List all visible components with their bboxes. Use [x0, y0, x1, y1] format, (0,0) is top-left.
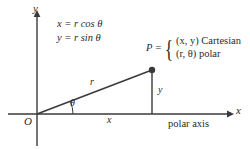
point-prefix-label: P = — [146, 43, 162, 54]
x-axis-label: x — [236, 105, 241, 116]
brace-icon: { — [165, 39, 173, 59]
point-case-cartesian: (x, y) Cartesian — [176, 36, 241, 47]
conversion-equations: x = r cos θ y = r sin θ — [57, 19, 103, 46]
angle-label: θ — [70, 98, 75, 108]
point-cases: (x, y) Cartesian (r, θ) polar — [176, 36, 241, 61]
diagram-canvas — [0, 0, 250, 149]
y-axis-label: y — [33, 3, 38, 14]
origin-label: O — [24, 116, 32, 127]
radius-segment — [37, 70, 152, 114]
opposite-leg-label: y — [158, 85, 162, 95]
y-axis — [34, 10, 41, 146]
adjacent-leg-label: x — [107, 115, 111, 125]
equation-x: x = r cos θ — [57, 19, 103, 30]
point-p-marker — [149, 67, 155, 73]
equation-y: y = r sin θ — [57, 33, 103, 44]
point-definition: P = { (x, y) Cartesian (r, θ) polar — [146, 36, 241, 61]
x-axis-arrowhead — [227, 111, 234, 118]
polar-cartesian-diagram: y x O x = r cos θ y = r sin θ P = { (x, … — [0, 0, 250, 149]
polar-axis-label: polar axis — [168, 119, 209, 130]
radius-label: r — [90, 77, 94, 87]
point-case-polar: (r, θ) polar — [176, 49, 241, 60]
